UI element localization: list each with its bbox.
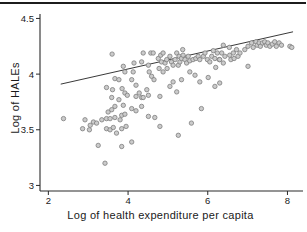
- data-point: [234, 47, 238, 51]
- data-point: [213, 56, 217, 60]
- data-point: [179, 78, 183, 82]
- data-point: [83, 118, 87, 122]
- data-point: [218, 81, 222, 85]
- data-point: [198, 80, 202, 84]
- data-point: [117, 78, 121, 82]
- data-point: [132, 61, 136, 65]
- data-point: [206, 75, 210, 79]
- data-point: [110, 88, 114, 92]
- data-point: [151, 51, 155, 55]
- data-point: [130, 106, 134, 110]
- data-point: [104, 85, 108, 89]
- data-point: [249, 41, 253, 45]
- data-point: [279, 43, 283, 47]
- data-point: [181, 53, 185, 57]
- data-point: [273, 40, 277, 44]
- x-axis-label: Log of health expenditure per capita: [14, 209, 307, 221]
- data-point: [108, 116, 112, 120]
- data-point: [158, 94, 162, 98]
- data-point: [186, 54, 190, 58]
- x-tick-label: 8: [285, 195, 290, 206]
- data-point: [246, 64, 250, 68]
- data-point: [124, 124, 128, 128]
- data-point: [221, 43, 225, 47]
- data-point: [165, 66, 169, 70]
- data-point: [121, 103, 125, 107]
- data-point: [218, 57, 222, 61]
- data-point: [208, 60, 212, 64]
- data-point: [238, 51, 242, 55]
- data-point: [120, 86, 124, 90]
- data-point: [131, 70, 135, 74]
- data-point: [214, 65, 218, 69]
- y-tick-label: 3.5: [21, 124, 34, 135]
- data-point: [168, 84, 172, 88]
- data-point: [188, 70, 192, 74]
- data-point: [100, 118, 104, 122]
- y-axis-label: Log of HALEs: [9, 62, 21, 133]
- data-point: [114, 131, 118, 135]
- data-point: [203, 51, 207, 55]
- data-point: [110, 52, 114, 56]
- data-point: [113, 104, 117, 108]
- data-point: [176, 133, 180, 137]
- data-point: [139, 104, 143, 108]
- y-tick-label: 4: [29, 69, 34, 80]
- data-point: [145, 88, 149, 92]
- data-point: [61, 116, 65, 120]
- data-point: [146, 63, 150, 67]
- data-point: [161, 51, 165, 55]
- data-point: [168, 54, 172, 58]
- data-point: [123, 70, 127, 74]
- data-point: [147, 70, 151, 74]
- data-point: [175, 90, 179, 94]
- data-point: [213, 84, 217, 88]
- data-point: [134, 109, 138, 113]
- data-point: [111, 125, 115, 129]
- data-point: [189, 121, 193, 125]
- data-point: [223, 54, 227, 58]
- data-point: [171, 63, 175, 67]
- data-point: [123, 112, 127, 116]
- data-point: [146, 114, 150, 118]
- figure: 246833.544.5 Log of health expenditure p…: [0, 0, 307, 232]
- y-tick-label: 3: [29, 180, 34, 191]
- data-point: [158, 124, 162, 128]
- data-point: [137, 91, 141, 95]
- data-point: [94, 121, 98, 125]
- x-tick-label: 6: [205, 195, 210, 206]
- data-point: [215, 51, 219, 55]
- data-point: [110, 95, 114, 99]
- data-point: [161, 70, 165, 74]
- data-point: [125, 93, 129, 97]
- data-point: [227, 45, 231, 49]
- y-tick-label: 4.5: [21, 13, 34, 24]
- data-point: [146, 93, 150, 97]
- data-point: [117, 98, 121, 102]
- data-point: [103, 161, 107, 165]
- data-point: [121, 64, 125, 68]
- data-point: [134, 83, 138, 87]
- data-point: [181, 47, 185, 51]
- data-point: [153, 115, 157, 119]
- data-point: [246, 44, 250, 48]
- x-tick-label: 2: [46, 195, 51, 206]
- data-point: [198, 57, 202, 61]
- data-point: [87, 128, 91, 132]
- data-point: [152, 78, 156, 82]
- data-point: [139, 60, 143, 64]
- data-point: [80, 127, 84, 131]
- data-point: [141, 51, 145, 55]
- data-point: [157, 66, 161, 70]
- data-point: [199, 106, 203, 110]
- data-point: [96, 143, 100, 147]
- data-point: [120, 144, 124, 148]
- data-point: [290, 45, 294, 49]
- data-point: [118, 118, 122, 122]
- data-point: [120, 127, 124, 131]
- data-point: [193, 73, 197, 77]
- data-point: [130, 140, 134, 144]
- data-point: [130, 78, 134, 82]
- data-point: [171, 80, 175, 84]
- scatter-plot: 246833.544.5: [0, 0, 307, 232]
